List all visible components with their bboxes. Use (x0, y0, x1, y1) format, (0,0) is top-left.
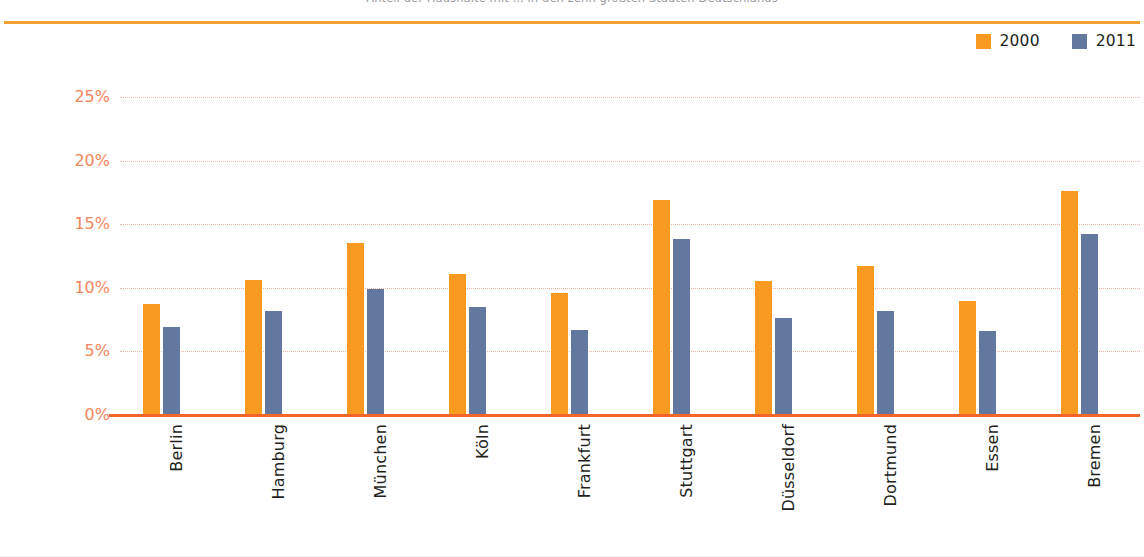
x-label-hamburg: Hamburg (271, 424, 287, 544)
bar-group-köln (449, 97, 486, 415)
legend-swatch-2011 (1072, 34, 1087, 49)
bar-stuttgart-2011[interactable] (673, 239, 690, 415)
bar-group-bremen (1061, 97, 1098, 415)
bar-berlin-2000[interactable] (143, 304, 160, 415)
bar-düsseldorf-2000[interactable] (755, 281, 772, 415)
bar-düsseldorf-2011[interactable] (775, 318, 792, 415)
bar-group-essen (959, 97, 996, 415)
y-tick-25%: 25% (60, 89, 110, 105)
x-label-frankfurt: Frankfurt (577, 424, 593, 544)
bar-dortmund-2011[interactable] (877, 311, 894, 415)
legend-label-2000: 2000 (1000, 34, 1040, 50)
x-axis-baseline (109, 414, 1140, 417)
y-tick-15%: 15% (60, 216, 110, 232)
y-tick-20%: 20% (60, 153, 110, 169)
legend-label-2011: 2011 (1096, 34, 1136, 50)
bar-münchen-2000[interactable] (347, 243, 364, 415)
bar-hamburg-2000[interactable] (245, 280, 262, 415)
bar-group-berlin (143, 97, 180, 415)
bar-chart: Anteil der Haushalte mit ... in den zehn… (0, 0, 1144, 557)
bar-group-düsseldorf (755, 97, 792, 415)
top-rule-divider (4, 21, 1140, 24)
bar-group-hamburg (245, 97, 282, 415)
bar-stuttgart-2000[interactable] (653, 200, 670, 415)
legend-item-2011[interactable]: 2011 (1072, 34, 1136, 50)
bar-bremen-2011[interactable] (1081, 234, 1098, 415)
y-tick-5%: 5% (60, 343, 110, 359)
x-label-stuttgart: Stuttgart (679, 424, 695, 544)
bar-group-stuttgart (653, 97, 690, 415)
legend-item-2000[interactable]: 2000 (976, 34, 1040, 50)
x-label-dortmund: Dortmund (883, 424, 899, 544)
bar-group-dortmund (857, 97, 894, 415)
bar-group-frankfurt (551, 97, 588, 415)
bar-essen-2011[interactable] (979, 331, 996, 415)
x-label-berlin: Berlin (169, 424, 185, 544)
x-label-münchen: München (373, 424, 389, 544)
x-label-düsseldorf: Düsseldorf (781, 424, 797, 544)
chart-legend: 2000 2011 (976, 34, 1137, 50)
bar-dortmund-2000[interactable] (857, 266, 874, 415)
x-label-köln: Köln (475, 424, 491, 544)
bar-köln-2011[interactable] (469, 307, 486, 415)
y-tick-0%: 0% (60, 407, 110, 423)
x-label-bremen: Bremen (1087, 424, 1103, 544)
bar-berlin-2011[interactable] (163, 327, 180, 415)
bar-hamburg-2011[interactable] (265, 311, 282, 415)
bar-münchen-2011[interactable] (367, 289, 384, 415)
bar-group-münchen (347, 97, 384, 415)
bar-köln-2000[interactable] (449, 274, 466, 415)
bar-bremen-2000[interactable] (1061, 191, 1078, 415)
x-label-essen: Essen (985, 424, 1001, 544)
y-tick-10%: 10% (60, 280, 110, 296)
chart-title-clipped: Anteil der Haushalte mit ... in den zehn… (0, 0, 1144, 7)
legend-swatch-2000 (976, 34, 991, 49)
plot-area (120, 97, 1140, 415)
bar-frankfurt-2011[interactable] (571, 330, 588, 415)
bar-essen-2000[interactable] (959, 301, 976, 415)
bar-frankfurt-2000[interactable] (551, 293, 568, 415)
